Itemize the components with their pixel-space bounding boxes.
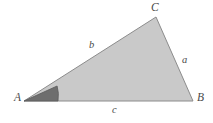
angle-marker-at-A-icon bbox=[24, 86, 58, 101]
vertex-label-a: A bbox=[14, 92, 21, 104]
vertex-label-b: B bbox=[197, 92, 204, 104]
triangle-shape bbox=[24, 17, 193, 101]
vertex-label-c: C bbox=[151, 2, 159, 14]
side-label-a: a bbox=[182, 55, 187, 66]
side-label-b: b bbox=[89, 40, 94, 51]
side-label-c: c bbox=[112, 105, 117, 116]
geometry-figure: A B C a b c bbox=[0, 0, 213, 123]
